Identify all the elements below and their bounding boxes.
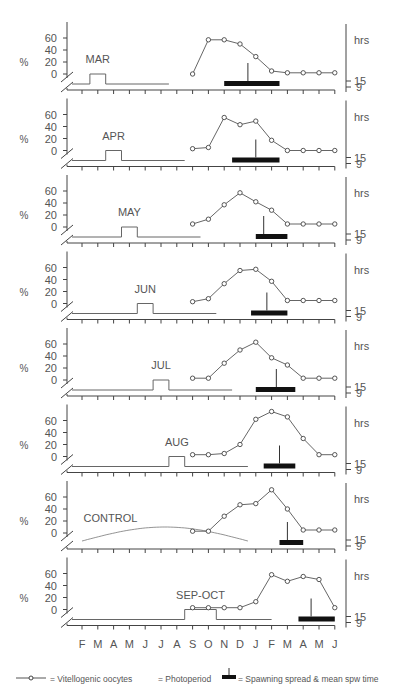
- oocyte-point: [333, 148, 337, 152]
- right-tick-label: 9: [356, 234, 362, 246]
- right-axis-label: hrs: [354, 187, 370, 199]
- oocyte-point: [238, 42, 242, 46]
- oocyte-point: [301, 436, 305, 440]
- y-axis-label: %: [20, 440, 29, 451]
- oocyte-point: [269, 573, 273, 577]
- oocyte-point: [285, 363, 289, 367]
- y-tick-label: 60: [45, 338, 57, 350]
- month-label: J: [253, 638, 259, 650]
- oocyte-point: [285, 507, 289, 511]
- y-tick-label: 20: [45, 592, 57, 604]
- month-label: F: [268, 638, 275, 650]
- y-tick-label: 20: [45, 56, 57, 68]
- oocyte-point: [254, 340, 258, 344]
- oocyte-point: [254, 417, 258, 421]
- month-label: M: [283, 638, 292, 650]
- oocyte-point: [317, 71, 321, 75]
- y-tick-label: 0: [51, 298, 57, 310]
- oocyte-point: [190, 529, 194, 533]
- oocyte-point: [317, 577, 321, 581]
- oocyte-line: [193, 490, 335, 531]
- spawning-bar: [251, 311, 287, 316]
- oocyte-point: [269, 208, 273, 212]
- y-tick-label: 40: [45, 121, 57, 133]
- month-label: F: [79, 638, 86, 650]
- y-tick-label: 0: [51, 68, 57, 80]
- y-tick-label: 40: [45, 197, 57, 209]
- y-tick-label: 60: [45, 185, 57, 197]
- legend-spawn-bar: [222, 675, 236, 679]
- oocyte-point: [190, 300, 194, 304]
- panel-label: JUL: [151, 359, 171, 371]
- oocyte-point: [317, 453, 321, 457]
- oocyte-point: [206, 217, 210, 221]
- y-tick-label: 40: [45, 350, 57, 362]
- oocyte-point: [222, 282, 226, 286]
- right-tick-label: 9: [356, 81, 362, 93]
- oocyte-point: [269, 279, 273, 283]
- month-label: M: [93, 638, 102, 650]
- oocyte-point: [285, 222, 289, 226]
- spawning-bar: [232, 158, 279, 163]
- photoperiod-line: [72, 304, 216, 314]
- y-tick-label: 20: [45, 133, 57, 145]
- panel-label: MAR: [86, 53, 111, 65]
- oocyte-point: [317, 376, 321, 380]
- panel-label: JUN: [135, 283, 156, 295]
- oocyte-point: [333, 298, 337, 302]
- month-label: N: [220, 638, 228, 650]
- oocyte-point: [238, 503, 242, 507]
- right-axis-label: hrs: [354, 34, 370, 46]
- right-axis-label: hrs: [354, 570, 370, 582]
- oocyte-point: [269, 69, 273, 73]
- right-axis-label: hrs: [354, 417, 370, 429]
- oocyte-point: [190, 453, 194, 457]
- y-tick-label: 0: [51, 527, 57, 539]
- oocyte-point: [238, 191, 242, 195]
- right-axis-label: hrs: [354, 264, 370, 276]
- oocyte-line: [193, 40, 335, 74]
- oocyte-point: [222, 38, 226, 42]
- y-tick-label: 20: [45, 286, 57, 298]
- spawning-bar: [224, 81, 279, 86]
- oocyte-point: [206, 38, 210, 42]
- figure: 0204060%hrs159MAR0204060%hrs159APR020406…: [0, 0, 402, 692]
- oocyte-point: [206, 453, 210, 457]
- oocyte-point: [317, 222, 321, 226]
- oocyte-point: [301, 148, 305, 152]
- y-tick-label: 40: [45, 44, 57, 56]
- y-tick-label: 0: [51, 604, 57, 616]
- oocyte-point: [222, 514, 226, 518]
- oocyte-point: [317, 298, 321, 302]
- legend-oocyte-point: [29, 676, 33, 680]
- oocyte-point: [285, 71, 289, 75]
- oocyte-line: [193, 269, 335, 301]
- oocyte-point: [285, 579, 289, 583]
- right-tick-label: 9: [356, 311, 362, 323]
- oocyte-point: [285, 415, 289, 419]
- photoperiod-line: [72, 380, 232, 390]
- right-tick-label: 9: [356, 617, 362, 629]
- panel-label: AUG: [165, 436, 189, 448]
- oocyte-point: [190, 376, 194, 380]
- y-tick-label: 0: [51, 145, 57, 157]
- right-tick-label: 9: [356, 540, 362, 552]
- oocyte-point: [190, 72, 194, 76]
- oocyte-point: [222, 451, 226, 455]
- y-axis-label: %: [20, 287, 29, 298]
- oocyte-point: [254, 119, 258, 123]
- oocyte-line: [193, 118, 335, 151]
- y-axis-label: %: [20, 593, 29, 604]
- month-label: M: [125, 638, 134, 650]
- oocyte-point: [317, 528, 321, 532]
- oocyte-point: [333, 222, 337, 226]
- oocyte-point: [206, 297, 210, 301]
- y-tick-label: 20: [45, 515, 57, 527]
- y-tick-label: 20: [45, 439, 57, 451]
- photoperiod-curve: [82, 527, 248, 541]
- y-tick-label: 40: [45, 427, 57, 439]
- photoperiod-line: [72, 151, 185, 161]
- oocyte-point: [206, 529, 210, 533]
- oocyte-point: [269, 356, 273, 360]
- spawning-bar: [280, 540, 304, 545]
